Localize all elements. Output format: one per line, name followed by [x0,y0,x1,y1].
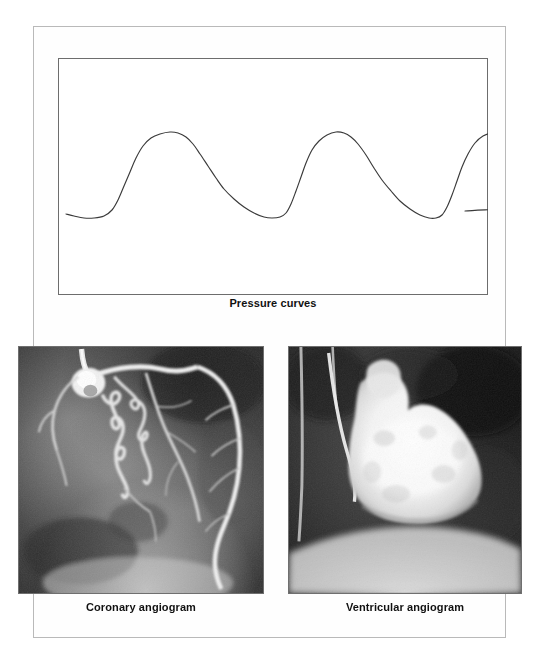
ventricular-angiogram-image [289,347,521,593]
ventricular-angiogram-caption: Ventricular angiogram [288,601,522,613]
pressure-trace-line [66,132,488,218]
coronary-angiogram-image [19,347,263,593]
pressure-curves-caption: Pressure curves [58,297,488,309]
ventricular-angiogram-panel [288,346,522,594]
coronary-angiogram-panel [18,346,264,594]
coronary-angiogram-caption: Coronary angiogram [18,601,264,613]
pressure-waveform-chart [58,58,488,295]
pressure-curves-panel [58,58,488,295]
